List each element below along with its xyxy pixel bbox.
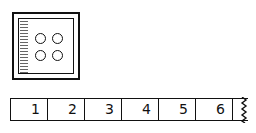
counting-card <box>12 12 80 80</box>
dot-icon <box>35 33 46 44</box>
torn-edge-icon <box>233 99 248 120</box>
card-inner-border <box>18 18 74 74</box>
number-cell: 2 <box>48 99 85 120</box>
number-cell: 3 <box>85 99 122 120</box>
dot-grid <box>35 33 65 63</box>
dot-icon <box>52 50 63 61</box>
number-cell: 6 <box>196 99 233 120</box>
number-cell: 1 <box>11 99 48 120</box>
number-cell: 4 <box>122 99 159 120</box>
number-cell: 5 <box>159 99 196 120</box>
ruler-ticks <box>20 21 28 75</box>
dot-icon <box>35 50 46 61</box>
dot-icon <box>52 33 63 44</box>
number-strip: 1 2 3 4 5 6 <box>10 98 248 121</box>
